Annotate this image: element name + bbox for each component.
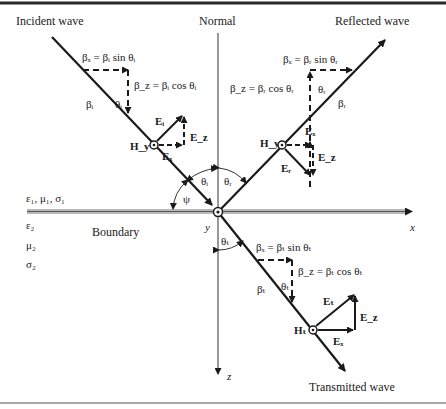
theta-i-angle-label: θᵢ xyxy=(201,176,208,187)
theta-t-angle-label: θₜ xyxy=(221,236,229,247)
medium2-sigma-label: σ₂ xyxy=(26,259,36,270)
transmitted-beta-x-equation: βₓ = βₜ sin θₜ xyxy=(256,242,311,253)
medium1-properties-label: ε₁, μ₁, σ₁ xyxy=(26,193,65,204)
oblique-incidence-diagram: Incident wave Normal Reflected wave Tran… xyxy=(0,0,446,409)
medium2-epsilon-label: ε₂ xyxy=(26,220,34,231)
boundary-label: Boundary xyxy=(92,226,139,238)
transmitted-e-label: Eₜ xyxy=(323,296,334,307)
incident-beta-x-equation: βₓ = βᵢ sin θᵢ xyxy=(82,52,135,63)
normal-label: Normal xyxy=(199,15,236,27)
reflected-hy-label: H_y xyxy=(260,138,280,149)
reflected-ray xyxy=(218,40,385,212)
transmitted-ex-label: Eₓ xyxy=(333,336,343,347)
incident-wave-label: Incident wave xyxy=(16,15,84,27)
incident-ez-label: E_z xyxy=(190,132,208,143)
diagram-graphics xyxy=(0,0,446,409)
reflected-theta-label: θᵣ xyxy=(318,84,326,95)
y-axis-label: y xyxy=(205,222,210,233)
transmitted-wave-label: Transmitted wave xyxy=(309,381,395,393)
incident-theta-label: θᵢ xyxy=(115,99,122,110)
transmitted-theta-label: θₜ xyxy=(281,281,289,292)
z-axis-label: z xyxy=(227,371,231,382)
reflected-wave-label: Reflected wave xyxy=(335,15,409,27)
medium2-mu-label: μ₂ xyxy=(26,240,36,251)
incident-beta-label: βᵢ xyxy=(86,99,93,110)
incident-beta-z-equation: β_z = βᵢ cos θᵢ xyxy=(134,80,196,91)
x-axis-label: x xyxy=(410,222,415,233)
reflected-e-label: Eᵣ xyxy=(281,163,291,174)
reflected-ez-label: E_z xyxy=(318,152,336,163)
reflected-beta-z-equation: β_z = βᵣ cos θᵣ xyxy=(230,83,294,94)
incident-hy-label: H_y xyxy=(130,141,150,152)
transmitted-beta-z-equation: β_z = βₜ cos θₜ xyxy=(298,266,362,277)
incident-ex-label: Eₓ xyxy=(162,151,172,162)
reflected-ex-label: Eₓ xyxy=(305,126,315,137)
transmitted-ez-label: E_z xyxy=(360,312,378,323)
reflected-beta-label: βᵣ xyxy=(338,98,346,109)
psi-angle-label: ψ xyxy=(183,194,190,205)
incident-e-label: Eᵢ xyxy=(155,116,164,127)
theta-r-angle-label: θᵣ xyxy=(224,176,232,187)
transmitted-h-label: Hₜ xyxy=(294,325,307,336)
transmitted-beta-label: βₜ xyxy=(257,284,265,295)
reflected-beta-x-equation: βₓ = βᵣ sin θᵣ xyxy=(283,54,338,65)
